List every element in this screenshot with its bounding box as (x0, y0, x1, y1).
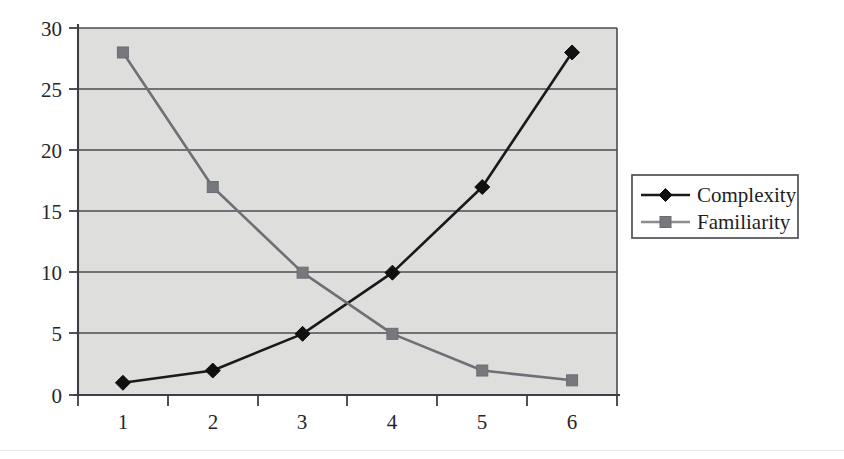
x-axis-ticks (78, 395, 617, 406)
y-tick-label-15: 15 (41, 200, 62, 224)
y-tick-label-30: 30 (41, 17, 62, 41)
square-marker-icon (387, 328, 398, 339)
x-tick-label-4: 4 (387, 410, 398, 434)
y-tick-label-20: 20 (41, 139, 62, 163)
x-tick-label-2: 2 (208, 410, 219, 434)
y-tick-label-5: 5 (52, 322, 63, 346)
x-tick-label-6: 6 (567, 410, 578, 434)
y-tick-label-0: 0 (52, 384, 63, 408)
x-axis-tick-labels: 1 2 3 4 5 6 (118, 410, 578, 434)
x-tick-label-5: 5 (477, 410, 488, 434)
chart-legend: Complexity Familiarity (632, 175, 798, 238)
square-marker-icon (660, 217, 671, 228)
line-chart: 30 25 20 15 10 5 0 1 2 3 4 5 6 (0, 0, 844, 459)
square-marker-icon (297, 267, 308, 278)
square-marker-icon (117, 47, 128, 58)
y-tick-label-10: 10 (41, 261, 62, 285)
x-tick-label-3: 3 (297, 410, 308, 434)
y-axis-tick-labels: 30 25 20 15 10 5 0 (41, 17, 62, 408)
scan-artifact-line (0, 450, 844, 451)
y-tick-label-25: 25 (41, 78, 62, 102)
square-marker-icon (207, 182, 218, 193)
legend-label-complexity: Complexity (697, 183, 797, 207)
x-tick-label-1: 1 (118, 410, 129, 434)
legend-label-familiarity: Familiarity (697, 210, 791, 234)
y-axis-ticks (69, 28, 78, 395)
chart-figure: 30 25 20 15 10 5 0 1 2 3 4 5 6 (0, 0, 844, 459)
square-marker-icon (477, 365, 488, 376)
square-marker-icon (567, 375, 578, 386)
